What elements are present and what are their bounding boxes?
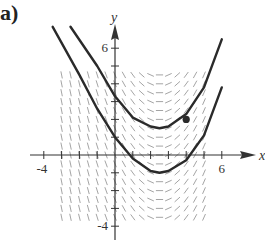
x-axis-label: x xyxy=(258,148,265,163)
slope-segment xyxy=(175,108,180,113)
slope-segment xyxy=(139,135,144,140)
slope-segment xyxy=(184,90,188,96)
slope-segment xyxy=(175,206,180,211)
slope-segment xyxy=(87,160,89,167)
slope-segment xyxy=(131,206,135,212)
slope-segment xyxy=(61,205,62,212)
slope-segment xyxy=(61,134,62,141)
slope-segment xyxy=(139,179,144,184)
slope-field xyxy=(61,71,206,220)
slope-segment xyxy=(139,81,144,86)
slope-segment xyxy=(184,81,188,87)
slope-segment xyxy=(96,80,98,87)
slope-segment xyxy=(147,189,154,192)
slope-segment xyxy=(122,134,125,140)
slope-segment xyxy=(147,109,154,112)
slope-segment xyxy=(122,81,125,87)
slope-segment xyxy=(184,170,188,176)
slope-segment xyxy=(175,90,180,95)
y-tick-label-min: -4 xyxy=(97,218,108,233)
slope-segment xyxy=(165,82,172,85)
slope-segment xyxy=(184,188,188,194)
slope-segment xyxy=(105,134,108,141)
slope-segment xyxy=(131,81,135,87)
slope-segment xyxy=(79,169,81,176)
slope-segment xyxy=(184,143,188,149)
slope-segment xyxy=(165,198,172,201)
slope-field-chart: x y -4 6 6 -4 xyxy=(0,0,265,245)
slope-segment xyxy=(79,214,81,221)
slope-segment xyxy=(147,73,154,76)
slope-segment xyxy=(105,72,108,79)
slope-segment xyxy=(175,179,180,184)
slope-segment xyxy=(175,197,180,202)
slope-segment xyxy=(203,205,206,212)
slope-segment xyxy=(165,145,172,148)
slope-segment xyxy=(87,107,89,114)
x-tick-label-min: -4 xyxy=(36,161,47,176)
slope-segment xyxy=(87,187,89,194)
slope-segment xyxy=(96,205,98,212)
slope-segment xyxy=(70,178,72,185)
slope-segment xyxy=(131,161,135,167)
slope-segment xyxy=(139,108,144,113)
slope-segment xyxy=(96,169,98,176)
slope-segment xyxy=(131,179,135,185)
slope-segment xyxy=(165,118,172,121)
slope-segment xyxy=(203,178,206,185)
slope-segment xyxy=(61,178,62,185)
slope-segment xyxy=(122,187,125,193)
slope-segment xyxy=(139,215,144,220)
slope-segment xyxy=(70,125,72,132)
slope-segment xyxy=(131,99,135,105)
slope-segment xyxy=(147,118,154,121)
slope-segment xyxy=(87,134,89,141)
slope-segment xyxy=(139,90,144,95)
slope-segment xyxy=(139,188,144,193)
slope-segment xyxy=(70,187,72,194)
slope-segment xyxy=(203,116,206,123)
slope-segment xyxy=(70,205,72,212)
slope-segment xyxy=(147,145,154,148)
slope-segment xyxy=(105,205,108,212)
slope-segment xyxy=(87,214,89,221)
slope-segment xyxy=(79,134,81,141)
slope-segment xyxy=(165,189,172,192)
slope-segment xyxy=(122,170,125,176)
slope-segment xyxy=(87,196,89,203)
slope-segment xyxy=(105,143,108,150)
slope-segment xyxy=(79,125,81,132)
slope-segment xyxy=(184,134,188,140)
slope-segment xyxy=(105,161,108,168)
slope-segment xyxy=(96,125,98,132)
slope-segment xyxy=(61,169,62,176)
slope-segment xyxy=(70,116,72,123)
slope-segment xyxy=(61,71,62,78)
slope-segment xyxy=(61,214,62,221)
slope-segment xyxy=(203,214,206,221)
slope-segment xyxy=(122,196,125,202)
slope-segment xyxy=(131,72,135,78)
slope-segment xyxy=(139,170,144,175)
slope-segment xyxy=(61,80,62,87)
slope-segment xyxy=(131,143,135,149)
slope-segment xyxy=(122,72,125,78)
slope-segment xyxy=(139,99,144,104)
slope-segment xyxy=(193,161,196,167)
slope-segment xyxy=(87,116,89,123)
slope-segment xyxy=(96,143,98,150)
slope-segment xyxy=(203,98,206,105)
slope-segment xyxy=(147,180,154,183)
slope-segment xyxy=(193,214,196,220)
slope-segment xyxy=(139,197,144,202)
slope-segment xyxy=(165,207,172,210)
slope-segment xyxy=(147,162,154,165)
slope-segment xyxy=(193,134,196,140)
slope-segment xyxy=(79,107,81,114)
slope-segment xyxy=(70,71,72,78)
slope-segment xyxy=(147,207,154,210)
slope-segment xyxy=(87,71,89,78)
slope-segment xyxy=(79,187,81,194)
slope-segment xyxy=(203,187,206,194)
slope-segment xyxy=(96,196,98,203)
